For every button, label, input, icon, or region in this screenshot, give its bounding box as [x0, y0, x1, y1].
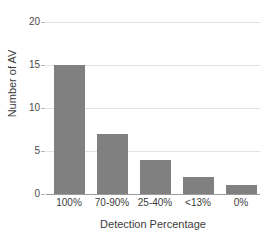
y-tick-label-5: 5 [34, 146, 40, 156]
y-tick-label-0: 0 [34, 189, 40, 199]
bar-chart-figure: Number of AV 20 15 10 5 0 100% 70-90% 25… [0, 0, 272, 242]
x-axis-tick-labels: 100% 70-90% 25-40% <13% 0% [46, 198, 260, 214]
y-tick-mark-5 [41, 151, 45, 152]
bars-layer [46, 22, 260, 194]
y-tick-label-10: 10 [29, 103, 40, 113]
bar-100-percent[interactable] [54, 65, 85, 194]
y-tick-mark-10 [41, 108, 45, 109]
x-tick-label-25-40-percent: 25-40% [138, 198, 172, 208]
y-tick-mark-15 [41, 65, 45, 66]
y-tick-label-20: 20 [29, 17, 40, 27]
y-tick-label-15: 15 [29, 60, 40, 70]
bar-25-40-percent[interactable] [140, 160, 171, 194]
x-tick-label-100-percent: 100% [56, 198, 82, 208]
x-tick-label-under-13-percent: <13% [185, 198, 211, 208]
y-tick-mark-0 [41, 194, 45, 195]
y-tick-mark-20 [41, 22, 45, 23]
bar-70-90-percent[interactable] [97, 134, 128, 194]
x-axis-baseline [46, 194, 260, 195]
plot-area [46, 22, 260, 194]
bar-under-13-percent[interactable] [183, 177, 214, 194]
y-axis-tick-labels: 20 15 10 5 0 [0, 22, 40, 194]
x-tick-label-0-percent: 0% [234, 198, 248, 208]
x-axis-title: Detection Percentage [46, 219, 260, 230]
bar-0-percent[interactable] [226, 185, 257, 194]
x-tick-label-70-90-percent: 70-90% [95, 198, 129, 208]
